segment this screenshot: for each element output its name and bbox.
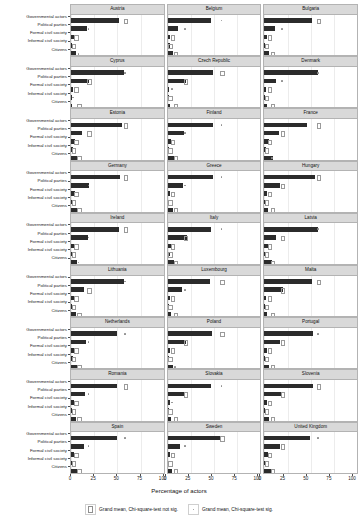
x-axis-tick-label: 75	[232, 477, 237, 482]
grand-mean-square	[317, 384, 321, 390]
facet-title: Portugal	[263, 317, 358, 327]
plot-area	[167, 118, 262, 161]
y-axis-labels: Governmental actorsPolitical partiesForm…	[0, 213, 70, 265]
bar	[168, 312, 172, 317]
grand-mean-square	[74, 348, 78, 354]
grand-mean-square	[74, 401, 78, 407]
grand-mean-square	[124, 123, 128, 129]
facet-title: Slovakia	[167, 369, 262, 379]
bar	[264, 235, 276, 240]
x-axis: 0255075100	[70, 474, 163, 486]
x-axis-tick-label: 0	[163, 477, 166, 482]
grand-mean-dot	[88, 237, 90, 239]
bar	[71, 331, 117, 336]
y-axis-labels: Governmental actorsPolitical partiesForm…	[0, 108, 70, 160]
bar	[264, 400, 267, 405]
grand-mean-square	[168, 252, 172, 258]
bar	[264, 331, 313, 336]
grand-mean-square	[271, 417, 275, 421]
bar	[168, 227, 212, 232]
plot-area	[263, 327, 358, 370]
facet-title: Finland	[167, 108, 262, 118]
y-axis-labels: Governmental actorsPolitical partiesForm…	[0, 317, 70, 369]
x-axis-tick-label: 75	[326, 477, 331, 482]
grand-mean-square	[281, 392, 285, 398]
grand-mean-dot	[221, 124, 223, 126]
bar	[168, 444, 180, 449]
grand-mean-square	[124, 19, 128, 25]
grand-mean-square	[271, 208, 275, 212]
y-axis-tick-label: Formal civil society	[30, 396, 67, 400]
bar	[71, 340, 86, 345]
bar	[71, 51, 76, 56]
bar	[168, 365, 174, 370]
facet-row: Governmental actorsPolitical partiesForm…	[0, 56, 358, 108]
grand-mean-dot	[184, 289, 186, 291]
y-axis-tick-label: Citizens	[51, 152, 67, 156]
grand-mean-dot	[171, 402, 173, 404]
bar	[264, 35, 267, 40]
facet-title: Estonia	[70, 108, 165, 118]
y-axis-tick-label: Political parties	[37, 440, 67, 444]
grand-mean-square	[74, 192, 78, 198]
bar	[168, 436, 220, 441]
grand-mean-square	[124, 384, 128, 390]
facet-title: Sweden	[167, 422, 262, 432]
y-axis-labels: Governmental actorsPolitical partiesForm…	[0, 369, 70, 421]
grand-mean-square	[72, 200, 76, 206]
plot-area	[70, 222, 165, 265]
facet-title: Spain	[70, 422, 165, 432]
y-axis-tick-label: Political parties	[37, 388, 67, 392]
grand-mean-square	[220, 436, 224, 442]
bar	[168, 191, 171, 196]
bar	[264, 312, 267, 317]
grand-mean-square	[220, 71, 224, 77]
grand-mean-square	[281, 131, 285, 137]
y-axis-tick-label: Political parties	[37, 336, 67, 340]
grand-mean-square	[268, 35, 272, 41]
y-axis-tick-label: Citizens	[51, 256, 67, 260]
y-axis-tick-label: Governmental actors	[26, 223, 67, 227]
facet-panel: Spain	[70, 422, 165, 474]
grand-mean-square	[87, 288, 91, 294]
y-axis-tick-label: Formal civil society	[30, 449, 67, 453]
grand-mean-dot	[88, 185, 90, 187]
bar	[264, 123, 307, 128]
facet-title: Bulgaria	[263, 4, 358, 14]
x-axis: 0255075100	[165, 474, 258, 486]
grand-mean-square	[77, 104, 81, 108]
bar	[71, 18, 119, 23]
grand-mean-square	[168, 44, 172, 50]
plot-area	[263, 170, 358, 213]
facet-panel: Ireland	[70, 213, 165, 265]
plot-area	[70, 379, 165, 422]
facet-title: Poland	[167, 317, 262, 327]
chart-root: Governmental actorsPolitical partiesForm…	[0, 0, 358, 522]
bar	[168, 35, 171, 40]
chart-legend: Grand mean, Chi-square-test not sig. Gra…	[0, 504, 358, 515]
grand-mean-dot	[88, 341, 90, 343]
grand-mean-square	[168, 357, 172, 363]
grand-mean-dot	[221, 228, 223, 230]
bar	[71, 87, 73, 92]
grand-mean-square	[184, 392, 188, 398]
bar	[168, 51, 174, 56]
facet-row: Governmental actorsPolitical partiesForm…	[0, 422, 358, 474]
grand-mean-square	[268, 244, 272, 250]
grand-mean-square	[77, 156, 81, 160]
y-axis-tick-label: Informal civil society	[28, 405, 67, 409]
plot-area	[263, 14, 358, 57]
grand-mean-square	[168, 200, 172, 206]
facet-row: Governmental actorsPolitical partiesForm…	[0, 213, 358, 265]
facet-panel: Poland	[167, 317, 262, 369]
grand-mean-square	[265, 96, 269, 102]
plot-area	[70, 118, 165, 161]
legend-label-not-sig: Grand mean, Chi-square-test not sig.	[99, 507, 178, 512]
facet-title: Slovenia	[263, 369, 358, 379]
y-axis-tick-label: Informal civil society	[28, 39, 67, 43]
y-axis-tick-label: Governmental actors	[26, 275, 67, 279]
y-axis-tick-label: Political parties	[37, 232, 67, 236]
grand-mean-square	[281, 444, 285, 450]
bar	[168, 392, 186, 397]
grand-mean-square	[268, 296, 272, 302]
